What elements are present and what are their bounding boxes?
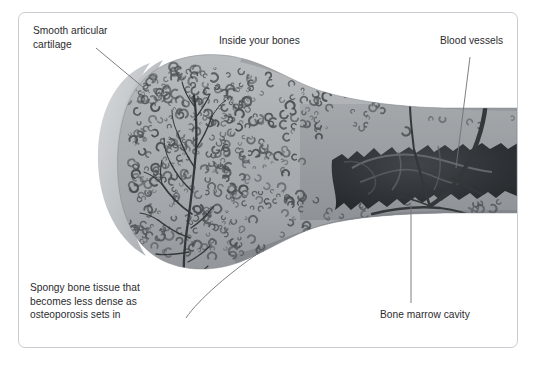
illustration-stage: Smooth articular cartilage Inside your b…: [0, 0, 541, 369]
label-inside-your-bones: Inside your bones: [219, 34, 349, 48]
label-bone-marrow-cavity: Bone marrow cavity: [380, 308, 510, 322]
label-spongy-bone-tissue: Spongy bone tissue that becomes less den…: [30, 281, 205, 322]
label-blood-vessels: Blood vessels: [440, 34, 541, 48]
label-articular-cartilage: Smooth articular cartilage: [33, 24, 163, 51]
